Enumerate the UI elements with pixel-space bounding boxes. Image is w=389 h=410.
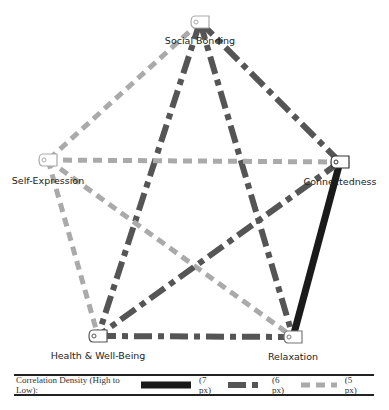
- node-relax[interactable]: Relaxation: [268, 331, 318, 362]
- node-label: Social Bonding: [165, 35, 235, 46]
- legend-title: Correlation Density (High to Low):: [16, 375, 131, 395]
- legend-item-low: (5 px): [301, 375, 364, 395]
- node-label: Self-Expression: [12, 175, 84, 186]
- network-diagram: Social BondingSelf-ExpressionConnectedne…: [0, 0, 389, 365]
- legend-label-high: (7 px): [199, 375, 218, 395]
- node-label: Connectedness: [304, 176, 377, 187]
- legend-label-low: (5 px): [345, 375, 364, 395]
- edges-layer: [48, 22, 340, 337]
- edge-self-health: [48, 160, 98, 336]
- node-health[interactable]: Health & Well-Being: [51, 330, 146, 361]
- node-self[interactable]: Self-Expression: [12, 154, 84, 186]
- legend-swatch-mid: [228, 381, 264, 389]
- edge-health-relax: [98, 336, 293, 337]
- edge-self-connect: [48, 160, 340, 162]
- legend-label-mid: (6 px): [272, 375, 291, 395]
- legend: Correlation Density (High to Low): (7 px…: [14, 374, 374, 396]
- node-label: Health & Well-Being: [51, 350, 146, 361]
- nodes-layer: Social BondingSelf-ExpressionConnectedne…: [12, 16, 377, 362]
- legend-item-mid: (6 px): [228, 375, 291, 395]
- edge-social-health: [98, 22, 200, 336]
- legend-item-high: (7 px): [141, 375, 218, 395]
- legend-swatch-low: [301, 381, 337, 389]
- legend-swatch-high: [141, 381, 191, 389]
- edge-social-relax: [200, 22, 293, 337]
- node-label: Relaxation: [268, 351, 318, 362]
- edge-self-relax: [48, 160, 293, 337]
